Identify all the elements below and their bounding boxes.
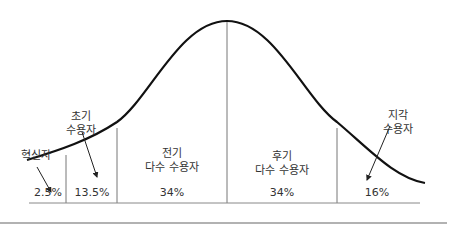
label-line: 다수 수용자 [242,164,322,178]
label-line: 수용자 [373,123,423,137]
label-line: 수용자 [56,124,106,138]
percent-early-majority: 34% [152,186,192,199]
percent-late-majority: 34% [262,186,302,199]
bell-curve [27,21,425,183]
percent-innovators: 2.5% [30,186,66,199]
label-line: 초기 [56,110,106,124]
percent-early-adopters: 13.5% [70,186,114,199]
label-early-majority: 전기 다수 수용자 [132,147,212,175]
arrow-early-adopters [82,132,97,177]
label-late-majority: 후기 다수 수용자 [242,150,322,178]
label-laggards: 지각 수용자 [373,109,423,137]
label-line: 지각 [373,109,423,123]
percent-laggards: 16% [357,186,397,199]
label-innovators: 혁신자 [14,149,58,163]
label-line: 다수 수용자 [132,161,212,175]
label-line: 혁신자 [14,149,58,163]
label-early-adopters: 초기 수용자 [56,110,106,138]
label-line: 후기 [242,150,322,164]
label-line: 전기 [132,147,212,161]
